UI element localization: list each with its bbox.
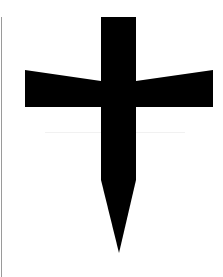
cross-icon	[0, 0, 223, 277]
cross-shaft	[101, 17, 136, 253]
